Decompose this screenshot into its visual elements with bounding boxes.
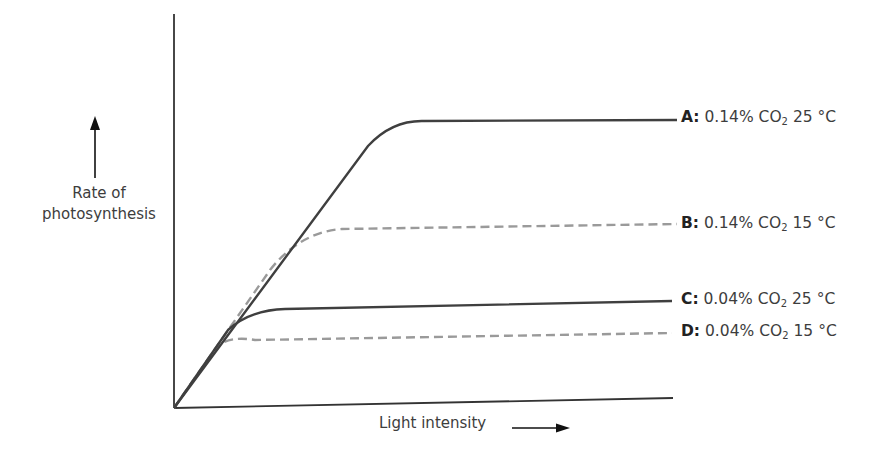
legend-label-c: C: 0.04% CO2 25 °C	[681, 290, 835, 309]
legend-key: B:	[681, 214, 699, 232]
y-axis-label-line2: photosynthesis	[40, 204, 158, 225]
y-axis-label-line1: Rate of	[40, 183, 158, 204]
legend-label-d: D: 0.04% CO2 15 °C	[681, 322, 837, 341]
legend-label-b: B: 0.14% CO2 15 °C	[681, 214, 836, 233]
x-axis	[174, 398, 673, 408]
legend-key: C:	[681, 290, 699, 308]
series-c-line	[174, 301, 672, 408]
legend-key: A:	[681, 108, 699, 126]
x-axis-label: Light intensity	[379, 414, 486, 432]
x-axis-right-arrow-icon	[512, 424, 570, 433]
legend-label-a: A: 0.14% CO2 25 °C	[681, 108, 836, 127]
y-axis-up-arrow-icon	[90, 116, 100, 178]
series-d-line	[174, 333, 672, 408]
series-a-line	[174, 120, 677, 408]
legend-key: D:	[681, 322, 700, 340]
y-axis-label: Rate of photosynthesis	[40, 183, 158, 225]
